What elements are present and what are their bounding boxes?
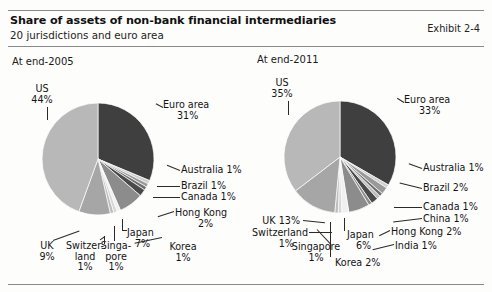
label-singapore-2005-value: 1%	[108, 261, 123, 272]
label-singapore-2011-value: 1%	[308, 252, 323, 263]
label-singapore-2005-name2: pore	[105, 251, 127, 262]
label-euro-2011-value: 33%	[404, 106, 440, 117]
label-uk-2005-name: UK	[40, 240, 53, 251]
label-us-2011: US 35%	[262, 78, 302, 99]
label-switzerland-2005-name: Switzer-	[66, 240, 104, 251]
label-canada-2011: Canada 1%	[423, 202, 478, 213]
leader-japan-2005	[122, 219, 123, 230]
label-us-2011-name: US	[275, 77, 288, 88]
label-switzerland-2005-value: 1%	[77, 261, 92, 272]
leader-japan-2011	[344, 218, 345, 231]
leader-japan-2005-b	[122, 230, 127, 231]
label-us-2011-value: 35%	[271, 88, 292, 99]
label-switzerland-2005-name2: land	[75, 251, 96, 262]
label-euro-2011: Euro area 33%	[404, 95, 468, 116]
leader-canada-2011	[394, 207, 422, 208]
label-singapore-2011: Singapore 1%	[285, 242, 347, 263]
label-korea-2005: Korea 1%	[161, 242, 205, 263]
leader-us-2011	[288, 101, 289, 115]
label-switzerland-2011-value-wrap: 1%	[240, 239, 294, 250]
label-uk-2005-value: 9%	[39, 251, 54, 262]
label-hongkong-2011: Hong Kong 2%	[391, 227, 461, 238]
leader-brazil-2005	[157, 186, 180, 187]
label-switzerland-2011: Switzerland	[240, 228, 308, 239]
label-australia-2005: Australia 1%	[181, 165, 242, 176]
label-euro-2005: Euro area 31%	[163, 100, 225, 121]
leader-switzerland-2011	[309, 232, 332, 233]
leader-canada-2005	[153, 197, 180, 198]
label-china-2011: China 1%	[423, 214, 469, 225]
label-india-2011: India 1%	[395, 241, 437, 252]
label-us-2005: US 44%	[22, 84, 62, 105]
label-hongkong-2005-value: 2%	[175, 219, 213, 230]
label-switzerland-2011-value: 1%	[279, 238, 294, 249]
leader-us-2005	[47, 107, 48, 120]
label-hongkong-2005-name: Hong Kong	[175, 207, 227, 218]
label-korea-2005-name: Korea	[169, 241, 196, 252]
label-uk-2005: UK 9%	[31, 241, 63, 262]
label-uk-2011: UK 13%	[240, 216, 300, 227]
label-japan-2011-value: 6%	[347, 241, 371, 252]
label-us-2005-name: US	[35, 83, 48, 94]
label-euro-2005-name: Euro area	[163, 99, 209, 110]
label-us-2005-value: 44%	[31, 94, 52, 105]
label-japan-2011: Japan 6%	[347, 230, 374, 251]
label-hongkong-2005: Hong Kong 2%	[175, 208, 227, 229]
label-australia-2011: Australia 1%	[423, 163, 484, 174]
exhibit-page: Share of assets of non-bank financial in…	[0, 0, 492, 292]
label-euro-2011-name: Euro area	[404, 94, 450, 105]
label-japan-2011-name: Japan	[347, 229, 374, 240]
label-switzerland-2011-name: Switzerland	[252, 227, 308, 238]
leader-singapore-2005	[114, 226, 115, 241]
label-singapore-2011-name: Singapore	[292, 241, 340, 252]
label-brazil-2011: Brazil 2%	[423, 183, 468, 194]
label-switzerland-2005: Switzer- land 1%	[62, 241, 108, 273]
label-canada-2005: Canada 1%	[181, 192, 236, 203]
label-japan-2005-name: Japan	[127, 227, 154, 238]
label-euro-2005-value: 31%	[163, 111, 198, 122]
label-korea-2005-value: 1%	[175, 252, 190, 263]
label-brazil-2005: Brazil 1%	[181, 181, 226, 192]
